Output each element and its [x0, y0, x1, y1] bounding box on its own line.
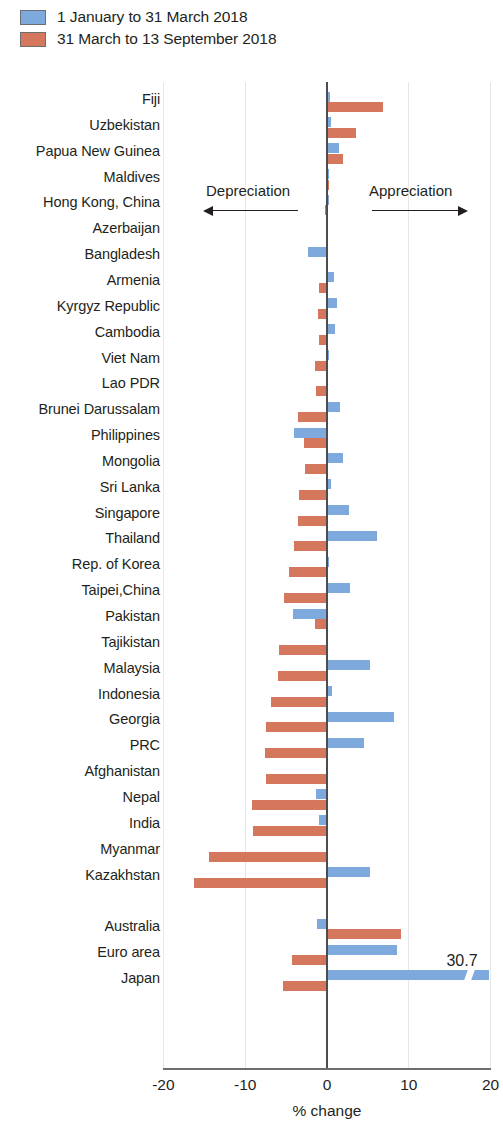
bar-blue — [293, 609, 327, 619]
bar-red — [327, 154, 343, 164]
x-tick-label: -20 — [133, 1076, 193, 1094]
bar-blue — [327, 453, 343, 463]
row-label: Brunei Darussalam — [0, 401, 160, 417]
bar-red — [304, 438, 327, 448]
row-label: Euro area — [0, 944, 160, 960]
row-label: Georgia — [0, 711, 160, 727]
row-label: Indonesia — [0, 686, 160, 702]
bar-blue — [327, 583, 350, 593]
appreciation-arrow-line — [372, 210, 458, 211]
row-label: Cambodia — [0, 324, 160, 340]
gridline-20 — [490, 82, 491, 1068]
row-label: Myanmar — [0, 841, 160, 857]
bar-red — [271, 697, 327, 707]
appreciation-arrow-head — [458, 206, 468, 216]
bar-red — [292, 955, 327, 965]
bar-blue — [327, 298, 337, 308]
bar-red — [253, 826, 327, 836]
row-label: Sri Lanka — [0, 479, 160, 495]
row-label: Hong Kong, China — [0, 194, 160, 210]
row-label: Kyrgyz Republic — [0, 298, 160, 314]
row-label: Philippines — [0, 427, 160, 443]
row-label: Viet Nam — [0, 350, 160, 366]
bar-blue — [327, 272, 334, 282]
bar-blue — [327, 738, 364, 748]
bar-red — [305, 464, 327, 474]
depreciation-arrow-line — [213, 210, 298, 211]
bar-blue — [327, 531, 377, 541]
row-label: Rep. of Korea — [0, 556, 160, 572]
row-label: Australia — [0, 918, 160, 934]
appreciation-annotation: Appreciation — [369, 182, 452, 199]
currency-change-bar-chart: 1 January to 31 March 2018 31 March to 1… — [0, 0, 503, 1130]
row-label: Armenia — [0, 272, 160, 288]
x-axis-line — [163, 1068, 490, 1070]
gridline--10 — [245, 82, 246, 1068]
bar-blue — [308, 247, 327, 257]
row-label: Nepal — [0, 789, 160, 805]
bar-blue — [327, 402, 340, 412]
row-label: Azerbaijan — [0, 220, 160, 236]
row-label: Taipei,China — [0, 582, 160, 598]
bar-red — [299, 490, 327, 500]
depreciation-annotation: Depreciation — [206, 182, 290, 199]
depreciation-arrow-head — [203, 206, 213, 216]
row-label: Papua New Guinea — [0, 143, 160, 159]
bar-red — [266, 774, 327, 784]
x-tick-label: 20 — [461, 1076, 503, 1094]
bar-red — [327, 128, 356, 138]
bar-red — [327, 102, 383, 112]
bar-red — [265, 748, 327, 758]
bar-red — [315, 361, 327, 371]
row-label: Uzbekistan — [0, 117, 160, 133]
bar-blue — [294, 428, 327, 438]
row-label: Japan — [0, 970, 160, 986]
plot-area: FijiUzbekistanPapua New GuineaMaldivesHo… — [0, 0, 503, 1130]
bar-blue — [327, 712, 394, 722]
bar-red — [294, 541, 327, 551]
bar-red — [279, 645, 327, 655]
bar-blue — [327, 867, 370, 877]
x-tick-label: -10 — [215, 1076, 275, 1094]
bar-red — [252, 800, 327, 810]
row-label: Lao PDR — [0, 375, 160, 391]
bar-blue — [327, 143, 339, 153]
bar-red — [327, 929, 401, 939]
gridline--20 — [163, 82, 164, 1068]
bar-red — [298, 412, 327, 422]
bar-red — [209, 852, 327, 862]
bar-red — [289, 567, 327, 577]
row-label: Afghanistan — [0, 763, 160, 779]
japan-value-label: 30.7 — [446, 952, 477, 970]
bar-red — [194, 878, 327, 888]
row-label: Singapore — [0, 505, 160, 521]
row-label: India — [0, 815, 160, 831]
row-label: Fiji — [0, 91, 160, 107]
row-label: PRC — [0, 737, 160, 753]
bar-red — [266, 722, 327, 732]
row-label: Mongolia — [0, 453, 160, 469]
bar-blue — [327, 945, 397, 955]
bar-red — [298, 516, 327, 526]
row-label: Pakistan — [0, 608, 160, 624]
bar-red — [283, 981, 327, 991]
bar-red — [278, 671, 327, 681]
x-tick-label: 0 — [297, 1076, 357, 1094]
x-tick-label: 10 — [379, 1076, 439, 1094]
row-label: Thailand — [0, 530, 160, 546]
x-axis-title: % change — [227, 1102, 427, 1120]
bar-blue — [327, 324, 335, 334]
row-label: Maldives — [0, 169, 160, 185]
bar-blue — [327, 505, 349, 515]
bar-red — [315, 619, 327, 629]
row-label: Tajikistan — [0, 634, 160, 650]
bar-red — [284, 593, 327, 603]
zero-line — [326, 82, 328, 1068]
row-label: Kazakhstan — [0, 867, 160, 883]
gridline-10 — [408, 82, 409, 1068]
row-label: Bangladesh — [0, 246, 160, 262]
row-label: Malaysia — [0, 660, 160, 676]
bar-blue — [327, 660, 370, 670]
